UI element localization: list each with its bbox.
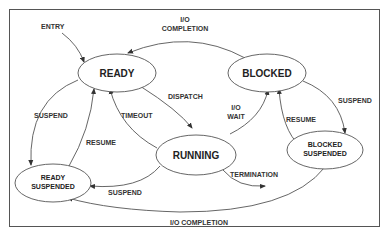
label-resume-left: RESUME	[86, 139, 116, 146]
state-ready-suspended: READY SUSPENDED	[15, 164, 91, 202]
state-blocked: BLOCKED	[228, 54, 306, 92]
label-suspend-bottom: SUSPEND	[108, 189, 142, 196]
state-diagram: READY BLOCKED RUNNING READY SUSPENDED BL…	[0, 0, 387, 244]
label-termination: TERMINATION	[230, 171, 278, 178]
label-dispatch: DISPATCH	[168, 93, 203, 100]
label-resume-right: RESUME	[286, 116, 316, 123]
edge-resume-left	[69, 89, 94, 166]
label-io-completion-top-1: I/O	[180, 16, 190, 23]
label-timeout: TIMEOUT	[121, 112, 153, 119]
label-io-wait-2: WAIT	[227, 113, 245, 120]
state-ready-label: READY	[99, 68, 134, 79]
state-ready-suspended-label-1: READY	[41, 174, 66, 181]
edge-suspend-left	[31, 80, 78, 165]
edge-entry	[62, 33, 84, 62]
state-blocked-label: BLOCKED	[242, 68, 291, 79]
label-io-completion-top-2: COMPLETION	[162, 25, 209, 32]
state-blocked-suspended-label-2: SUSPENDED	[303, 150, 347, 157]
label-io-completion-bottom: I/O COMPLETION	[170, 219, 228, 226]
state-blocked-suspended: BLOCKED SUSPENDED	[287, 131, 363, 169]
label-entry: ENTRY	[41, 23, 65, 30]
label-suspend-right: SUSPEND	[338, 97, 372, 104]
label-suspend-left: SUSPEND	[34, 112, 68, 119]
state-running: RUNNING	[156, 135, 236, 175]
edge-io-wait	[230, 90, 268, 134]
edge-io-completion-top	[128, 42, 245, 58]
edge-suspend-bottom	[90, 166, 160, 187]
state-ready-suspended-label-2: SUSPENDED	[31, 183, 75, 190]
state-ready: READY	[78, 54, 156, 92]
edge-suspend-right	[303, 81, 345, 133]
state-blocked-suspended-label-1: BLOCKED	[308, 141, 343, 148]
state-running-label: RUNNING	[173, 150, 220, 161]
label-io-wait-1: I/O	[231, 104, 241, 111]
